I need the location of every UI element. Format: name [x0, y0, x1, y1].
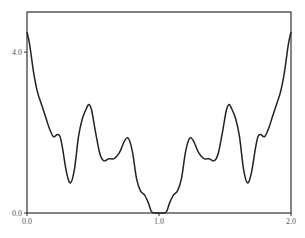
x-tick-label: 0.0 [22, 217, 32, 226]
x-axis-ticks: 0.01.02.0 [22, 213, 296, 226]
line-chart: 0.04.0 0.01.02.0 [0, 0, 305, 238]
y-axis-ticks: 0.04.0 [12, 48, 27, 218]
y-tick-label: 4.0 [12, 48, 22, 57]
data-line [27, 32, 291, 213]
x-tick-label: 1.0 [154, 217, 164, 226]
plot-frame [27, 12, 291, 213]
x-tick-label: 2.0 [286, 217, 296, 226]
y-tick-label: 0.0 [12, 209, 22, 218]
